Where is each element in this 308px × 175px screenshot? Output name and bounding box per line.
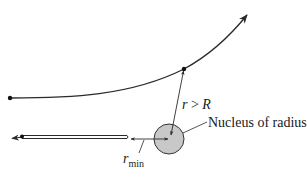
nucleus-leader-line (183, 122, 207, 133)
nucleus-label: Nucleus of radius R (208, 115, 308, 131)
rmin-subscript: min (128, 158, 144, 169)
start-point-dot (8, 96, 12, 100)
backscattered-trajectory (12, 135, 128, 139)
rmin-label: rmin (123, 151, 144, 169)
greater-than-symbol: > (191, 97, 199, 112)
backscatter-start-dot (20, 135, 24, 139)
R-variable: R (202, 97, 211, 112)
rutherford-scattering-diagram (0, 0, 308, 175)
r-variable: r (182, 97, 187, 112)
particle-position-dot (182, 67, 186, 71)
scattered-trajectory (8, 15, 247, 100)
r-greater-than-R-label: r > R (182, 97, 211, 113)
nucleus-label-text: Nucleus of radius (208, 115, 308, 130)
